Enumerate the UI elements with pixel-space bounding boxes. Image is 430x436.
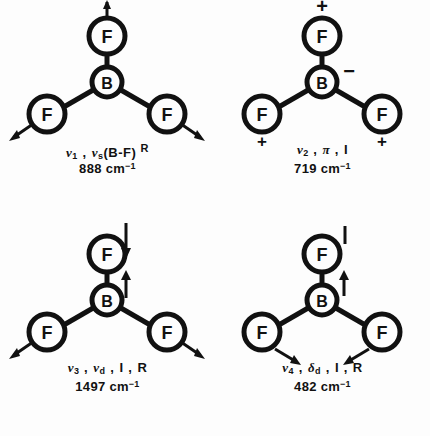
atom-label-left: F [257,323,268,343]
mode-panel-nu2: F B F F + + + − ν2 , π , I 719 cm−1 [215,0,430,218]
atom-label-right: F [162,323,173,343]
mode-wavenumber-nu4: 482 cm−1 [215,379,430,395]
arrow-up-top-F [103,0,111,17]
arrow-down-left-F [9,342,33,359]
atom-label-center: B [101,293,113,310]
arrow-down-right-F [181,342,205,359]
atom-label-left: F [42,323,53,343]
mode-label-nu3: ν3 , νd , I , R [0,360,215,378]
molecule-diagram-nu4: F B F F [215,218,430,368]
mode-wavenumber-nu2: 719 cm−1 [215,161,430,177]
atom-label-right: F [162,105,173,125]
atom-label-top: F [317,27,328,47]
minus-sign-center-B: − [343,60,355,82]
atom-label-top: F [102,245,113,265]
mode-label-nu2: ν2 , π , I [215,142,430,160]
atom-label-right: F [377,105,388,125]
atom-label-left: F [257,105,268,125]
arrow-up-center-B [339,270,349,296]
vibrational-modes-figure: F B F F ν1 , νs(B-F [0,0,430,436]
atom-label-center: B [316,75,328,92]
atom-label-center: B [101,75,113,92]
mode-panel-nu1: F B F F ν1 , νs(B-F [0,0,215,218]
arrow-down-left-F [9,124,33,141]
mode-wavenumber-nu3: 1497 cm−1 [0,379,215,395]
mode-panel-nu4: F B F F [215,218,430,436]
molecule-diagram-nu2: F B F F + + + − [215,0,430,150]
atom-label-center: B [316,293,328,310]
molecule-diagram-nu3: F B F F [0,218,215,368]
arrow-down-right-F [181,124,205,141]
mode-label-nu4: ν4 , δd , I , R [215,360,430,378]
atom-label-right: F [377,323,388,343]
mode-label-nu1: ν1 , νs(B-F) R [0,142,215,162]
atom-label-left: F [42,105,53,125]
plus-sign-top-F: + [316,0,328,17]
atom-label-top: F [102,27,113,47]
atom-label-top: F [317,245,328,265]
molecule-diagram-nu1: F B F F [0,0,215,150]
mode-panel-nu3: F B F F [0,218,215,436]
mode-wavenumber-nu1: 888 cm−1 [0,161,215,177]
